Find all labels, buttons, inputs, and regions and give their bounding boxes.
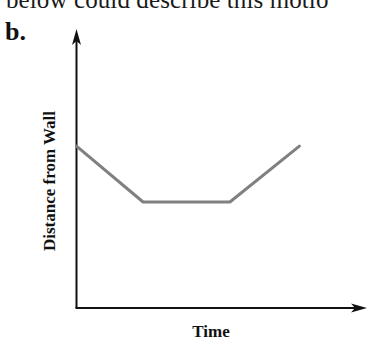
distance-line — [77, 146, 300, 202]
y-axis-label: Distance from Wall — [40, 111, 60, 251]
x-axis-label: Time — [192, 322, 229, 342]
axes — [72, 29, 367, 313]
